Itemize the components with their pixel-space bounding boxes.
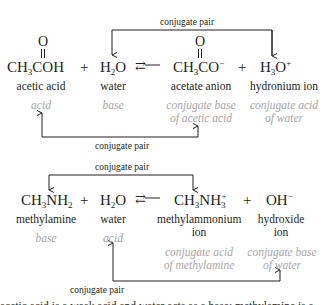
double-bond — [198, 49, 202, 58]
plus-sign: + — [238, 59, 246, 76]
hydroxide-name-line2: ion — [248, 226, 314, 239]
hydronium-name: hydronium ion — [243, 80, 325, 93]
methylammonium-role-line2: of methylamine — [155, 259, 243, 272]
carbonyl-oxygen: O — [194, 35, 206, 49]
water-role: base — [94, 99, 132, 112]
acetic-acid-formula: CH3COH — [7, 59, 64, 76]
water-name: water — [94, 80, 132, 93]
plus-sign: + — [80, 59, 88, 76]
hydroxide-role-line1: conjugate base — [244, 246, 320, 259]
plus-sign: + — [243, 192, 251, 209]
water-role: acid — [94, 232, 132, 245]
acetate-role-line2: of acetic acid — [160, 112, 242, 125]
hydroxide-formula: OH− — [266, 192, 293, 209]
methylamine-name: methylamine — [12, 213, 80, 226]
hydroxide-role-line2: of water — [244, 259, 320, 272]
methylammonium-name-line1: methylammonium — [157, 213, 241, 226]
equilibrium-arrow-icon: ⇄ — [135, 57, 146, 74]
methylamine-role: base — [12, 232, 80, 245]
r1-bottom-label: conjugate pair — [95, 141, 149, 152]
hydronium-formula: H3O+ — [260, 59, 291, 76]
water-formula: H2O — [100, 192, 126, 209]
plus-sign: + — [80, 192, 88, 209]
acetate-role-line1: conjugate base — [160, 99, 242, 112]
r2-top-label: conjugate pair — [95, 162, 149, 173]
carbonyl-oxygen: O — [37, 35, 49, 49]
r1-top-bracket — [112, 30, 272, 56]
r1-top-label: conjugate pair — [160, 17, 214, 28]
r2-bottom-label: conjugate pair — [70, 285, 124, 296]
methylamine-formula: CH3NH2 — [21, 192, 73, 209]
methylammonium-role-line1: conjugate acid — [155, 246, 243, 259]
equilibrium-arrow-icon: ⇄ — [135, 190, 146, 207]
acetate-formula: CH3CO− — [173, 59, 224, 76]
methylammonium-formula: CH3NH3+ — [174, 192, 227, 209]
acetate-name: acetate anion — [163, 80, 239, 93]
water-name: water — [94, 213, 132, 226]
methylammonium-name-line2: ion — [157, 226, 241, 239]
acetic-acid-role: acid — [4, 99, 78, 112]
water-formula: H2O — [100, 59, 126, 76]
clipped-caption: acetic acid is a weak acid and water act… — [0, 299, 329, 305]
hydronium-role-line1: conjugate acid — [243, 99, 325, 112]
acetic-acid-name: acetic acid — [4, 80, 78, 93]
double-bond — [41, 49, 45, 58]
hydroxide-name-line1: hydroxide — [248, 213, 314, 226]
r2-top-bracket — [49, 175, 193, 190]
hydronium-role-line2: of water — [243, 112, 325, 125]
